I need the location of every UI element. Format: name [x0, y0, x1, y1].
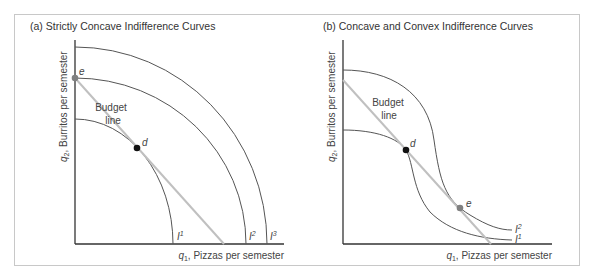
- panel-a-title: (a) Strictly Concave Indifference Curves: [30, 20, 215, 32]
- panel-a-point-e-label: e: [79, 66, 85, 77]
- panel-b-title: (b) Concave and Convex Indifference Curv…: [323, 20, 533, 32]
- panel-a-curve-i1: [75, 119, 173, 244]
- panel-a-point-d: [134, 145, 141, 152]
- panel-b: (b) Concave and Convex Indifference Curv…: [323, 20, 553, 262]
- panel-a-point-d-label: d: [142, 137, 148, 148]
- panel-a-label-i2: I2: [249, 230, 256, 242]
- panel-a-budget-label-2: line: [105, 115, 121, 126]
- panel-a-point-e: [72, 75, 79, 82]
- panel-b-curve-i2: [343, 70, 512, 230]
- panel-b-label-i1: I1: [515, 233, 522, 245]
- panel-b-budget-label-1: Budget: [372, 97, 404, 108]
- panel-a-budget-label-1: Budget: [95, 102, 127, 113]
- panel-a-curve-i3: [75, 47, 267, 244]
- panel-b-point-d-label: d: [410, 138, 416, 149]
- panel-b-budget-label-2: line: [381, 110, 397, 121]
- panel-b-point-e-label: e: [466, 198, 472, 209]
- panel-a-x-label: q1, Pizzas per semester: [178, 250, 284, 262]
- panel-a-y-label: q2, Burritos per semester: [58, 51, 70, 162]
- panel-b-x-label: q1, Pizzas per semester: [446, 250, 552, 262]
- panel-a-label-i3: I3: [270, 230, 277, 242]
- panel-b-point-d: [403, 147, 410, 154]
- panel-b-y-label: q2, Burritos per semester: [326, 51, 338, 162]
- panel-a-label-i1: I1: [177, 230, 184, 242]
- figure-canvas: (a) Strictly Concave Indifference Curves…: [0, 0, 594, 278]
- panel-b-budget-line: [343, 80, 491, 244]
- panel-a: (a) Strictly Concave Indifference Curves…: [30, 20, 285, 262]
- panel-b-point-e: [457, 205, 464, 212]
